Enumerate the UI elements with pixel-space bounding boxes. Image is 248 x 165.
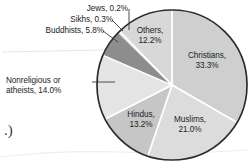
- pie-label-others-line2: 12.2%: [128, 36, 172, 46]
- pie-chart-figure: Jews, 0.2% Sikhs, 0.3% Buddhists, 5.8% N…: [0, 0, 248, 165]
- pie-label-hindus-line2: 13.2%: [118, 120, 164, 130]
- pie-label-muslims-line2: 21.0%: [166, 125, 214, 135]
- pie-label-christians-line1: Christians,: [177, 51, 237, 61]
- scan-line-artifact-top: [2, 49, 108, 52]
- pie-label-jews: Jews, 0.2%: [87, 4, 128, 14]
- pie-label-hindus-line1: Hindus,: [118, 110, 164, 120]
- leader-line-sikhs: [112, 20, 123, 31]
- pie-label-hindus: Hindus, 13.2%: [118, 110, 164, 130]
- pie-label-nonreligious: Nonreligious or atheists, 14.0%: [6, 76, 90, 96]
- pie-label-others: Others, 12.2%: [128, 26, 172, 46]
- pie-label-sikhs: Sikhs, 0.3%: [70, 15, 113, 25]
- pie-label-nonreligious-line1: Nonreligious or: [6, 76, 90, 86]
- pie-label-buddhists: Buddhists, 5.8%: [46, 26, 104, 36]
- pie-label-muslims: Muslims, 21.0%: [166, 115, 214, 135]
- pie-label-christians: Christians, 33.3%: [177, 51, 237, 71]
- page-text-fragment: .): [4, 122, 13, 139]
- scan-line-artifact-bottom: [0, 150, 248, 157]
- pie-label-nonreligious-line2: atheists, 14.0%: [6, 86, 90, 96]
- pie-label-christians-line2: 33.3%: [177, 61, 237, 71]
- pie-label-muslims-line1: Muslims,: [166, 115, 214, 125]
- pie-label-others-line1: Others,: [128, 26, 172, 36]
